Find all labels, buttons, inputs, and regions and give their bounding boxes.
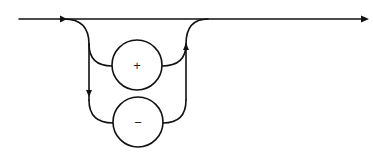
left-branch-curve: [64, 19, 89, 44]
plus-node: +: [112, 40, 162, 90]
minus-label: −: [134, 115, 142, 130]
syntax-diagram: + −: [0, 0, 373, 156]
plus-out-track: [162, 44, 186, 66]
plus-label: +: [133, 58, 141, 73]
minus-out-track: [163, 100, 186, 123]
down-arrow-icon: [86, 90, 92, 97]
minus-in-track: [89, 100, 113, 123]
exit-arrow-icon: [361, 16, 369, 23]
right-branch-curve: [186, 19, 208, 44]
minus-node: −: [113, 97, 163, 147]
plus-in-track: [89, 44, 112, 66]
